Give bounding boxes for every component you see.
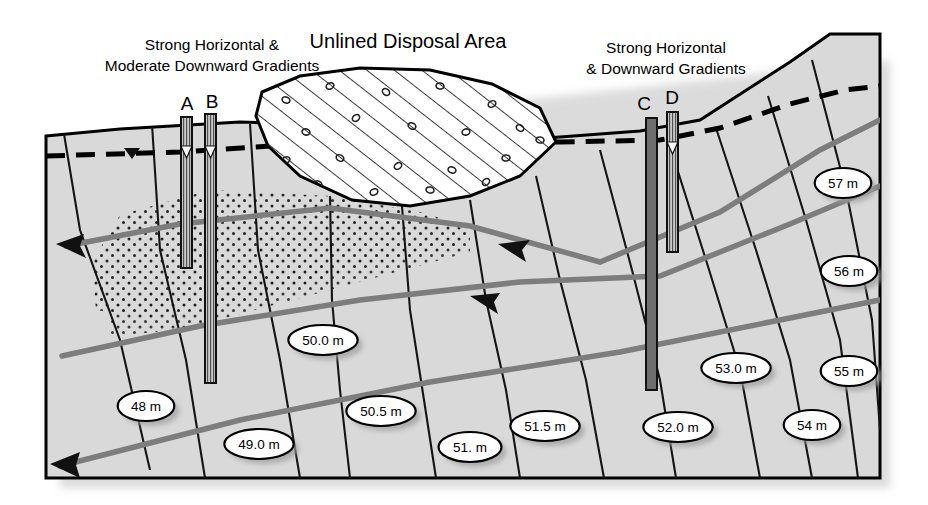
figure-canvas: Strong Horizontal & Moderate Downward Gr…: [0, 0, 928, 505]
contour-label-text: 50.5 m: [360, 404, 401, 419]
contour-label-text: 50.0 m: [302, 333, 343, 348]
contour-label-text: 51.5 m: [524, 419, 565, 434]
contour-label-text: 51. m: [453, 440, 487, 455]
well-A[interactable]: [181, 117, 192, 268]
label-right-line2: & Downward Gradients: [586, 60, 746, 77]
well-B[interactable]: [205, 114, 216, 383]
contour-label-text: 48 m: [131, 399, 161, 414]
contour-label-text: 53.0 m: [715, 361, 756, 376]
contour-label-text: 55 m: [834, 364, 864, 379]
label-left-line1: Strong Horizontal &: [145, 36, 280, 53]
well-D[interactable]: [667, 112, 678, 252]
contour-label-text: 52.0 m: [657, 420, 698, 435]
label-right-line1: Strong Horizontal: [606, 39, 726, 56]
contour-label-text: 54 m: [797, 418, 827, 433]
contour-label-text: 57 m: [828, 176, 858, 191]
well-label-c: C: [637, 93, 651, 114]
label-left-line2: Moderate Downward Gradients: [105, 57, 320, 74]
page-title: Unlined Disposal Area: [310, 30, 508, 52]
well-label-d: D: [665, 87, 679, 108]
well-label-a: A: [181, 93, 194, 114]
cross-section-diagram: Strong Horizontal & Moderate Downward Gr…: [0, 0, 928, 505]
well-label-b: B: [206, 91, 219, 112]
contour-label-text: 56 m: [834, 264, 864, 279]
well-C[interactable]: [646, 118, 657, 390]
contour-label-text: 49.0 m: [238, 437, 279, 452]
